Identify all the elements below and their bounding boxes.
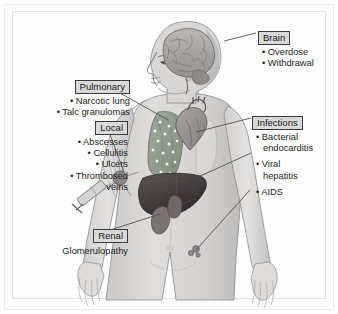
list-item: • Cellulitis	[20, 148, 128, 159]
list-item: • Viral	[256, 159, 313, 170]
list-item: veins	[20, 182, 128, 193]
callout-renal-label: Renal	[93, 229, 128, 243]
callout-brain-header: Brain	[258, 27, 314, 45]
callout-brain: Brain • Overdose • Withdrawal	[258, 27, 314, 69]
callout-local-header: Local	[20, 117, 128, 135]
list-item: endocarditis	[256, 143, 313, 154]
list-item: • Thrombosed	[20, 171, 128, 182]
list-item: • Bacterial	[256, 132, 313, 143]
callout-brain-items: • Overdose • Withdrawal	[258, 47, 314, 69]
callout-infections-items: • Bacterial endocarditis • Viral hepatit…	[252, 132, 313, 198]
list-item: • Ulcers	[20, 159, 128, 170]
list-item: hepatitis	[256, 171, 313, 182]
callout-pulmonary-items: • Narcotic lung • Talc granulomas	[18, 96, 130, 118]
figure-canvas: Brain • Overdose • Withdrawal Pulmonary …	[0, 0, 338, 314]
callout-local-items: • Abscesses • Cellulitis • Ulcers • Thro…	[20, 137, 128, 193]
callout-renal-header: Renal	[18, 225, 128, 243]
callout-local-label: Local	[95, 121, 128, 135]
list-item: • Narcotic lung	[18, 96, 130, 107]
callout-infections: Infections • Bacterial endocarditis • Vi…	[252, 112, 313, 198]
callout-pulmonary: Pulmonary • Narcotic lung • Talc granulo…	[18, 76, 130, 118]
leader-brain	[224, 33, 256, 41]
list-item: • Abscesses	[20, 137, 128, 148]
callout-renal-items: Glomerulopathy	[18, 246, 128, 257]
list-item: • Withdrawal	[262, 58, 314, 69]
callout-infections-label: Infections	[252, 116, 303, 130]
list-item: • AIDS	[256, 187, 313, 198]
callout-pulmonary-header: Pulmonary	[18, 76, 130, 94]
callout-local: Local • Abscesses • Cellulitis • Ulcers …	[20, 117, 128, 193]
callout-infections-header: Infections	[252, 112, 313, 130]
callout-pulmonary-label: Pulmonary	[75, 80, 130, 94]
callout-brain-label: Brain	[258, 31, 290, 45]
list-item: • Overdose	[262, 47, 314, 58]
list-item: Glomerulopathy	[18, 246, 128, 257]
callout-renal: Renal Glomerulopathy	[18, 225, 128, 257]
